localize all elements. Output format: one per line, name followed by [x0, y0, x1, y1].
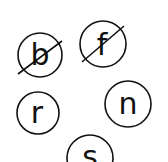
letter-b: b	[30, 37, 49, 72]
letter-s: s	[82, 139, 98, 162]
letter-circle-b[interactable]: b	[18, 33, 62, 77]
letter-n: n	[118, 86, 137, 121]
letter-r: r	[31, 95, 44, 130]
letter-circles-canvas: b f r n s	[0, 0, 168, 162]
letter-circle-r[interactable]: r	[17, 92, 59, 134]
letter-circle-n[interactable]: n	[105, 81, 151, 127]
letter-circle-f[interactable]: f	[80, 21, 126, 67]
letter-circle-s[interactable]: s	[67, 135, 113, 162]
